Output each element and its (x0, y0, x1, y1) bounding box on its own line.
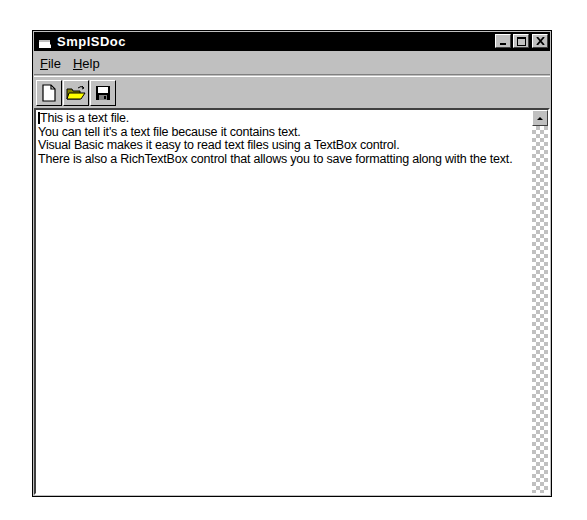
close-button[interactable] (532, 34, 548, 48)
text-line: This is a text file. (40, 111, 129, 125)
window-controls (493, 34, 548, 48)
vertical-scrollbar[interactable] (532, 110, 548, 493)
text-line: Visual Basic makes it easy to read text … (38, 138, 399, 152)
app-window: SmplSDoc File Help (32, 30, 552, 497)
save-button[interactable] (90, 80, 116, 106)
minimize-icon (499, 37, 507, 45)
menu-help-label: elp (82, 56, 99, 71)
maximize-icon (517, 37, 526, 46)
arrow-up-icon (537, 117, 543, 120)
scroll-up-button[interactable] (532, 110, 548, 126)
floppy-disk-icon (95, 85, 111, 101)
menu-file-accel: F (40, 56, 48, 71)
new-document-icon (41, 84, 57, 102)
toolbar (34, 76, 550, 108)
app-icon[interactable] (38, 36, 52, 48)
window-title: SmplSDoc (57, 34, 126, 49)
document-textbox[interactable]: This is a text file. You can tell it's a… (34, 108, 550, 495)
open-button[interactable] (63, 80, 89, 106)
text-line: You can tell it's a text file because it… (38, 125, 301, 139)
menu-file-label: ile (48, 56, 61, 71)
maximize-button[interactable] (513, 34, 529, 48)
menu-help-accel: H (73, 56, 82, 71)
minimize-button[interactable] (495, 34, 511, 48)
menu-file[interactable]: File (34, 56, 67, 71)
close-icon (536, 37, 545, 45)
new-button[interactable] (36, 80, 62, 106)
document-text: This is a text file. You can tell it's a… (38, 112, 528, 166)
title-bar[interactable]: SmplSDoc (34, 32, 550, 51)
text-line: There is also a RichTextBox control that… (38, 152, 512, 166)
menu-bar: File Help (34, 52, 550, 75)
open-folder-icon (66, 85, 86, 101)
menu-help[interactable]: Help (67, 56, 106, 71)
